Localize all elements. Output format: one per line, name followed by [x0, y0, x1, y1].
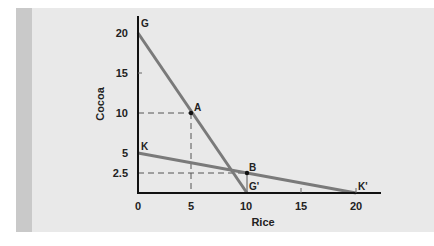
- y-tick-5: 5: [122, 147, 128, 159]
- x-axis-title: Rice: [251, 216, 274, 228]
- x-tick-20: 20: [350, 200, 362, 212]
- point-a: [189, 111, 193, 115]
- y-tick-2-5: 2.5: [113, 167, 128, 179]
- chart-svg: 20 15 10 5 2.5 0 5 10 15 20 Rice Cocoa G…: [0, 0, 434, 246]
- label-b: B: [249, 162, 256, 173]
- dashed-guides: [138, 113, 247, 193]
- label-a: A: [194, 102, 201, 113]
- x-tick-0: 0: [135, 200, 141, 212]
- x-tick-10: 10: [240, 200, 252, 212]
- label-g-prime: G': [249, 181, 259, 192]
- x-tick-15: 15: [295, 200, 307, 212]
- y-tick-15: 15: [116, 67, 128, 79]
- x-tick-5: 5: [188, 200, 194, 212]
- label-k: K: [141, 141, 149, 152]
- label-g: G: [141, 18, 149, 29]
- y-tick-20: 20: [116, 27, 128, 39]
- label-k-prime: K': [358, 181, 368, 192]
- y-axis-title: Cocoa: [94, 86, 106, 121]
- y-tick-10: 10: [116, 107, 128, 119]
